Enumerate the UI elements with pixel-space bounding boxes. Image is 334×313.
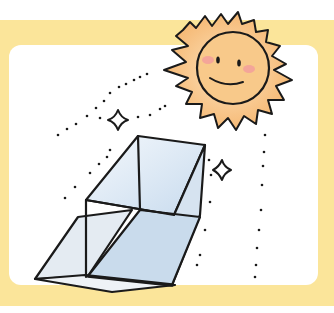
sun-icon	[164, 12, 292, 130]
reflector-box	[35, 136, 205, 292]
solar-cooker-illustration	[0, 0, 334, 313]
